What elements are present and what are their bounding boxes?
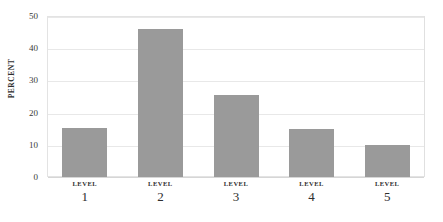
category-name: LEVEL	[198, 179, 274, 188]
category-name: LEVEL	[274, 179, 350, 188]
x-axis-category-label: LEVEL5	[349, 179, 425, 205]
x-axis-category-labels: LEVEL1LEVEL2LEVEL3LEVEL4LEVEL5	[47, 179, 425, 222]
category-number: 5	[349, 189, 425, 205]
bars-layer	[47, 16, 425, 177]
category-name: LEVEL	[349, 179, 425, 188]
x-axis-category-label: LEVEL4	[274, 179, 350, 205]
bar	[214, 95, 259, 177]
y-axis-tick-label: 20	[29, 108, 38, 118]
category-number: 1	[47, 189, 123, 205]
x-axis-category-label: LEVEL2	[122, 179, 198, 205]
bar-chart: PERCENT 01020304050 LEVEL1LEVEL2LEVEL3LE…	[0, 0, 443, 222]
gridline	[48, 177, 424, 178]
x-axis-category-label: LEVEL3	[198, 179, 274, 205]
category-number: 3	[198, 189, 274, 205]
x-axis-category-label: LEVEL1	[47, 179, 123, 205]
bar	[62, 128, 107, 177]
y-axis-tick-label: 40	[29, 43, 38, 53]
category-name: LEVEL	[122, 179, 198, 188]
bar	[138, 29, 183, 177]
y-axis-tick-label: 0	[34, 172, 39, 182]
category-number: 4	[274, 189, 350, 205]
y-axis-tick-label: 30	[29, 75, 38, 85]
category-number: 2	[122, 189, 198, 205]
y-axis-tick-label: 50	[29, 11, 38, 21]
bar	[365, 145, 410, 177]
y-axis-tick-label: 10	[29, 140, 38, 150]
bar	[289, 129, 334, 177]
y-axis-tick-labels: 01020304050	[0, 16, 43, 177]
category-name: LEVEL	[47, 179, 123, 188]
